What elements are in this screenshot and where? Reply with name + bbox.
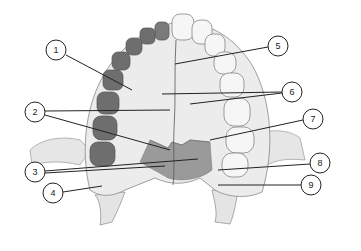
svg-text:1: 1 xyxy=(53,45,58,55)
label-4: 4 xyxy=(43,183,63,203)
label-1: 1 xyxy=(46,40,66,60)
svg-text:3: 3 xyxy=(32,167,37,177)
svg-text:2: 2 xyxy=(32,107,37,117)
label-7: 7 xyxy=(303,109,323,129)
svg-text:8: 8 xyxy=(317,158,322,168)
svg-text:5: 5 xyxy=(275,41,280,51)
svg-text:6: 6 xyxy=(289,87,294,97)
hard-palate-diagram: 1 2 3 4 5 6 7 8 9 xyxy=(0,0,361,251)
label-6: 6 xyxy=(282,82,302,102)
svg-text:7: 7 xyxy=(310,114,315,124)
label-2: 2 xyxy=(25,102,45,122)
svg-text:4: 4 xyxy=(50,188,55,198)
label-5: 5 xyxy=(268,36,288,56)
label-9: 9 xyxy=(301,175,321,195)
left-lateral-process xyxy=(30,138,90,165)
label-8: 8 xyxy=(310,153,330,173)
left-pterygoid-plate xyxy=(95,192,125,225)
label-3: 3 xyxy=(25,162,45,182)
svg-text:9: 9 xyxy=(308,180,313,190)
